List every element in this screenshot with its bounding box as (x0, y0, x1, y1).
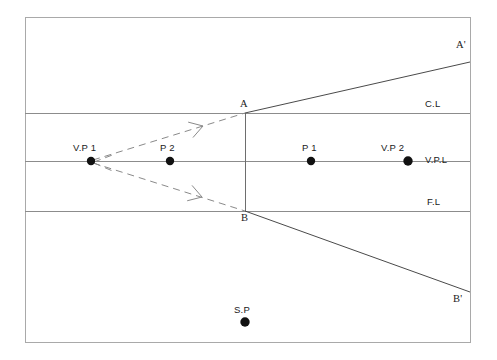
label-foot-line: F.L (427, 197, 440, 207)
point-p2-dot (166, 157, 174, 165)
point-p1-dot (307, 157, 315, 165)
label-vanishing-point-line: V.P.L (425, 155, 447, 165)
diagram-frame (26, 18, 471, 343)
ray-b-to-b-prime (245, 211, 470, 292)
point-vp1-dot (87, 157, 95, 165)
point-sp-dot (240, 317, 249, 326)
label-vertex-a: A (240, 99, 248, 110)
label-vertex-b-prime: B' (453, 294, 462, 305)
label-point-p2: P 2 (160, 143, 175, 153)
vp1-convergence-ticks (94, 154, 115, 172)
label-vertex-b: B (241, 213, 248, 224)
label-point-vp2: V.P 2 (381, 143, 404, 153)
label-point-vp1: V.P 1 (73, 143, 96, 153)
label-center-line: C.L (425, 99, 440, 109)
label-point-p1: P 1 (302, 143, 317, 153)
label-point-sp: S.P (234, 305, 250, 315)
perspective-diagram: C.L V.P.L F.L V.P 1 P 2 P 1 V.P 2 S.P A … (0, 0, 497, 360)
label-vertex-a-prime: A' (456, 40, 466, 51)
point-vp2-dot (403, 156, 412, 165)
dashed-ray-vp1-to-b (93, 163, 245, 211)
